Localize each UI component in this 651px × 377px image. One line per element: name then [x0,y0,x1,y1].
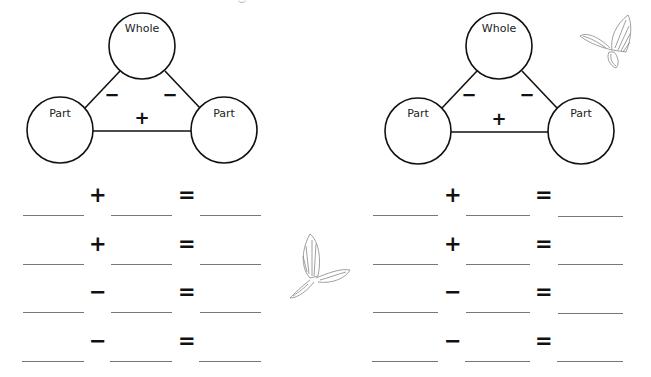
blank-addend-1[interactable] [23,264,84,265]
operator-sign: − [444,331,460,352]
blank-minuend[interactable] [23,312,84,313]
blank-addend-2[interactable] [466,264,530,265]
blank-subtrahend[interactable] [111,312,172,313]
blank-addend-1[interactable] [373,264,438,265]
minus-sign-left: − [104,86,120,104]
operator-sign: + [444,185,460,206]
blank-result[interactable] [558,264,623,265]
blank-subtrahend[interactable] [465,361,530,362]
blank-result[interactable] [200,312,261,313]
operator-sign: + [89,185,105,206]
number-bond-diagram-left: Whole Part Part − − + [0,0,300,180]
blank-addend-1[interactable] [23,215,84,216]
whole-label: Whole [112,22,172,35]
equals-sign: = [535,234,551,255]
blank-minuend[interactable] [373,312,438,313]
equals-sign: = [178,331,194,352]
part-right-label: Part [194,107,254,120]
part-left-label: Part [388,107,448,120]
part-right-label: Part [551,107,611,120]
plus-sign: + [134,109,150,127]
equals-sign: = [535,331,551,352]
equals-sign: = [178,185,194,206]
butterfly-icon [284,230,352,302]
blank-minuend[interactable] [22,361,84,362]
blank-addend-1[interactable] [373,215,438,216]
plus-sign: + [491,110,507,128]
blank-subtrahend[interactable] [466,312,530,313]
blank-subtrahend[interactable] [110,361,172,362]
blank-addend-2[interactable] [111,215,172,216]
operator-sign: − [89,331,105,352]
operator-sign: − [444,282,460,303]
butterfly-icon [576,10,636,72]
operator-sign: + [89,234,105,255]
blank-result[interactable] [557,361,623,362]
blank-addend-2[interactable] [466,215,530,216]
blank-result[interactable] [558,313,623,314]
equals-sign: = [535,185,551,206]
minus-sign-right: − [519,86,535,104]
operator-sign: − [89,282,105,303]
blank-minuend[interactable] [372,361,438,362]
blank-result[interactable] [200,215,261,216]
part-left-label: Part [30,107,90,120]
blank-addend-2[interactable] [111,264,172,265]
equals-sign: = [535,282,551,303]
equals-sign: = [178,234,194,255]
blank-result[interactable] [200,264,261,265]
blank-result[interactable] [558,216,623,217]
operator-sign: + [444,234,460,255]
minus-sign-left: − [461,86,477,104]
whole-label: Whole [469,22,529,35]
blank-result[interactable] [199,361,261,362]
equals-sign: = [178,282,194,303]
minus-sign-right: − [162,86,178,104]
